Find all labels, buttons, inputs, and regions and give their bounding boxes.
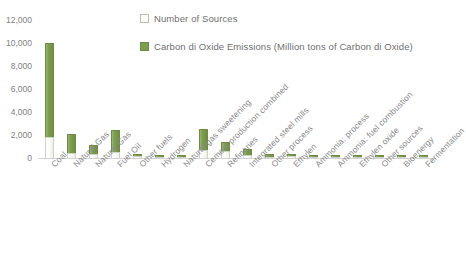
y-axis: 12,00010,0008,0006,0004,0002,0000	[0, 0, 36, 166]
stacked-bar[interactable]	[45, 43, 54, 158]
stacked-bar[interactable]	[67, 134, 76, 158]
y-axis-tick: 12,000	[6, 15, 32, 25]
y-axis-tick: 8,000	[11, 61, 32, 71]
bar-slot	[60, 20, 82, 158]
y-axis-tick: 6,000	[11, 84, 32, 94]
y-axis-tick: 4,000	[11, 107, 32, 117]
x-axis-labels: CoalNatural GasNatural GasFuel OilOther …	[38, 160, 434, 264]
y-axis-tick: 2,000	[11, 130, 32, 140]
y-axis-tick: 10,000	[6, 38, 32, 48]
bar-slot	[38, 20, 60, 158]
bar-segment-emissions	[45, 43, 54, 137]
bar-segment-emissions	[67, 134, 76, 153]
y-axis-tick: 0	[27, 153, 32, 163]
bar-segment-sources	[45, 137, 54, 158]
